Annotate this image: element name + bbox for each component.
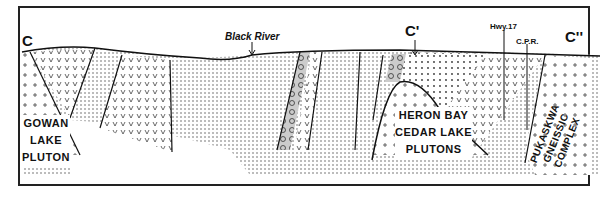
highway-label: Hwy.17 <box>490 22 517 31</box>
section-label-start: C <box>22 32 33 49</box>
cross-section <box>0 0 609 199</box>
heron-bay-cedar-lake-plutons-label: HERON BAY CEDAR LAKE PLUTONS <box>395 107 472 158</box>
section-label-middle: C' <box>405 22 419 39</box>
gowan-lake-pluton-label: GOWAN LAKE PLUTON <box>22 115 70 166</box>
river-label: Black River <box>225 31 279 42</box>
section-label-end: C'' <box>565 28 583 45</box>
railway-label: C.P.R. <box>516 37 539 46</box>
